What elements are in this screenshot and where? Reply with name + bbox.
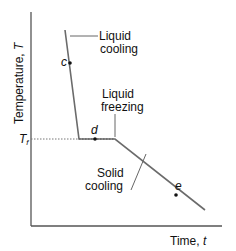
solid-cooling-label-line1: Solid <box>97 166 124 180</box>
point-c-marker <box>68 61 72 65</box>
y-axis-label: Temperature, <box>12 53 26 124</box>
cooling-curve-diagram: c d e Liquid cooling Liquid freezing Sol… <box>0 0 236 251</box>
liquid-cooling-label-line1: Liquid <box>99 29 131 43</box>
tf-label: Tf <box>19 132 29 147</box>
x-axis-symbol: t <box>203 234 207 248</box>
tf-label-subscript: f <box>26 138 29 147</box>
point-e-label: e <box>175 179 182 193</box>
x-axis-title: Time, t <box>170 234 207 248</box>
liquid-freezing-label-line1: Liquid <box>102 87 134 101</box>
point-d-marker <box>93 137 97 141</box>
point-c-label: c <box>61 55 67 69</box>
solid-cooling-leader <box>131 154 146 190</box>
point-e-marker <box>174 193 178 197</box>
liquid-cooling-label-line2: cooling <box>100 42 138 56</box>
liquid-freezing-label-line2: freezing <box>101 100 144 114</box>
y-axis-symbol: T <box>12 41 26 50</box>
x-axis-label: Time, <box>170 234 200 248</box>
y-axis-title: Temperature, T <box>12 41 26 124</box>
point-d-label: d <box>91 123 98 137</box>
svg-text:Temperature, T: Temperature, T <box>12 41 26 124</box>
solid-cooling-label-line2: cooling <box>85 179 123 193</box>
